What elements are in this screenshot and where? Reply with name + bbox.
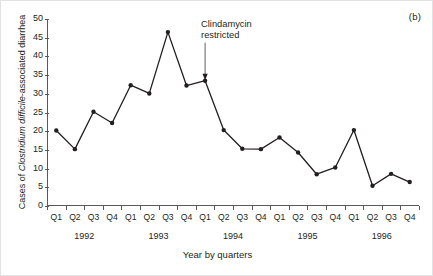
y-axis-tick: 45 xyxy=(7,38,51,39)
data-series-clostridium-difficile: Q1 1992: 20.2Q2 1992: 15.2Q3 1992: 25.2Q… xyxy=(47,19,419,206)
plot-area: 05101520253035404550 Q1Q2Q3Q4Q1Q2Q3Q4Q1Q… xyxy=(47,19,419,206)
x-axis-year-label: 1995 xyxy=(277,231,337,241)
data-point-marker: Q4 1995: 10.3 xyxy=(333,165,337,169)
data-point-marker: Q1 1995: 18.3 xyxy=(277,135,281,139)
annotation-label: Clindamycin restricted xyxy=(201,19,252,41)
data-point-marker: Q2 1996: 5.4 xyxy=(370,184,374,188)
x-axis-tick-mark xyxy=(196,206,197,210)
x-axis-tick-mark xyxy=(326,206,327,210)
y-axis-tick: 15 xyxy=(7,150,51,151)
y-axis-tick-mark xyxy=(45,113,49,114)
figure-panel: (b) Cases of Clostridium difficile-assoc… xyxy=(0,0,433,276)
y-axis-tick: 50 xyxy=(7,19,51,20)
x-axis-tick-mark xyxy=(66,206,67,210)
y-axis-tick-mark xyxy=(45,187,49,188)
y-axis-tick-label: 50 xyxy=(33,13,43,23)
x-axis-tick-mark xyxy=(84,206,85,210)
data-point-marker: Q2 1993: 30.1 xyxy=(147,91,151,95)
y-axis-tick: 0 xyxy=(7,206,51,207)
data-point-marker: Q4 1992: 22.2 xyxy=(110,121,114,125)
y-axis-tick-mark xyxy=(45,94,49,95)
data-point-marker: Q1 1992: 20.2 xyxy=(54,128,58,132)
x-axis-year-label: 1993 xyxy=(129,231,189,241)
y-axis-tick-mark xyxy=(45,131,49,132)
y-axis-tick-label: 35 xyxy=(33,69,43,79)
y-axis-tick-label: 45 xyxy=(33,32,43,42)
y-axis-title-prefix: Cases of xyxy=(17,171,27,209)
y-axis-tick-mark xyxy=(45,150,49,151)
x-axis-tick-mark xyxy=(307,206,308,210)
y-axis-tick-mark xyxy=(45,38,49,39)
y-axis-tick-mark xyxy=(45,169,49,170)
annotation-line-2: restricted xyxy=(201,30,252,41)
data-point-marker: Q2 1994: 20.3 xyxy=(222,128,226,132)
y-axis-tick-label: 25 xyxy=(33,107,43,117)
y-axis-tick-label: 15 xyxy=(33,144,43,154)
x-axis-tick-mark xyxy=(252,206,253,210)
data-point-marker: Q2 1992: 15.2 xyxy=(73,147,77,151)
y-axis-tick-label: 30 xyxy=(33,88,43,98)
data-point-marker: Q1 1996: 20.3 xyxy=(352,128,356,132)
series-line xyxy=(56,32,409,186)
x-axis-year-label: 1996 xyxy=(352,231,412,241)
x-axis-tick-mark xyxy=(382,206,383,210)
x-axis-tick-mark xyxy=(345,206,346,210)
x-axis-tick-mark xyxy=(419,206,420,210)
x-axis-tick-mark xyxy=(363,206,364,210)
x-axis-tick-mark xyxy=(400,206,401,210)
y-axis-tick-label: 5 xyxy=(38,181,43,191)
data-point-marker: Q1 1994: 33.5 xyxy=(203,79,207,83)
x-axis-quarter-label: Q4 xyxy=(395,212,425,222)
y-axis-tick: 30 xyxy=(7,94,51,95)
x-axis-tick-mark xyxy=(140,206,141,210)
y-axis-tick-mark xyxy=(45,19,49,20)
data-point-marker: Q1 1993: 32.3 xyxy=(129,83,133,87)
y-axis-tick-label: 10 xyxy=(33,163,43,173)
annotation-line-1: Clindamycin xyxy=(201,19,252,30)
y-axis-tick-mark xyxy=(45,75,49,76)
y-axis-tick: 35 xyxy=(7,75,51,76)
y-axis-tick-label: 40 xyxy=(33,50,43,60)
x-axis-year-label: 1992 xyxy=(54,231,114,241)
y-axis-title-species: Clostridium difficile xyxy=(17,96,27,171)
x-axis-tick-mark xyxy=(103,206,104,210)
y-axis-tick: 40 xyxy=(7,56,51,57)
x-axis-year-label: 1994 xyxy=(203,231,263,241)
y-axis-tick: 25 xyxy=(7,113,51,114)
x-axis-tick-mark xyxy=(47,206,48,210)
y-axis-tick: 5 xyxy=(7,187,51,188)
data-point-marker: Q3 1993: 46.5 xyxy=(166,30,170,34)
data-point-marker: Q4 1996: 6.4 xyxy=(408,180,412,184)
y-axis-tick-label: 20 xyxy=(33,125,43,135)
y-axis-tick-label: 0 xyxy=(38,200,43,210)
y-axis-tick: 20 xyxy=(7,131,51,132)
y-axis-tick: 10 xyxy=(7,169,51,170)
data-point-marker: Q3 1992: 25.2 xyxy=(91,110,95,114)
x-axis-title: Year by quarters xyxy=(1,249,433,260)
x-axis-tick-mark xyxy=(270,206,271,210)
x-axis-tick-mark xyxy=(233,206,234,210)
data-point-marker: Q2 1995: 14.3 xyxy=(296,150,300,154)
x-axis-tick-mark xyxy=(121,206,122,210)
y-axis-tick-mark xyxy=(45,56,49,57)
x-axis-tick-mark xyxy=(159,206,160,210)
data-point-marker: Q3 1996: 8.6 xyxy=(389,172,393,176)
x-axis-tick-mark xyxy=(289,206,290,210)
data-point-marker: Q3 1995: 8.5 xyxy=(315,172,319,176)
data-point-marker: Q3 1994: 15.3 xyxy=(240,147,244,151)
data-point-marker: Q4 1994: 15.2 xyxy=(259,147,263,151)
x-axis-tick-mark xyxy=(177,206,178,210)
data-point-marker: Q4 1993: 32.2 xyxy=(184,83,188,87)
x-axis-tick-mark xyxy=(214,206,215,210)
